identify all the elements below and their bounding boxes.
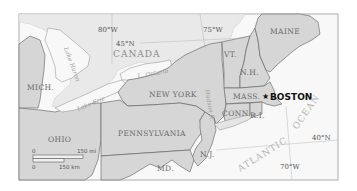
scale-zero-bottom: 0 — [32, 164, 36, 170]
maryland-label: MD. — [157, 164, 174, 173]
canada-label: CANADA — [113, 49, 160, 59]
maine-label: MAINE — [270, 27, 300, 36]
pennsylvania-land — [101, 100, 205, 156]
michigan-label: MICH. — [27, 83, 54, 92]
scale-km-label: 150 km — [59, 164, 80, 170]
northeast-us-map: 80°W 75°W 45°N 40°N 70°W CANADA Lake Hur… — [0, 0, 357, 191]
pennsylvania-label: PENNSYLVANIA — [118, 129, 186, 138]
new-jersey-label: N.J. — [200, 150, 215, 159]
scale-zero-top: 0 — [32, 148, 36, 154]
lon-70-label: 70°W — [280, 163, 300, 171]
scale-miles-label: 150 mi — [77, 148, 97, 154]
ohio-label: OHIO — [48, 135, 71, 144]
rhode-island-label: R.I. — [250, 111, 265, 120]
lon-75-label: 75°W — [203, 26, 223, 34]
massachusetts-label: MASS. — [233, 92, 260, 101]
star-icon: ★ — [262, 92, 269, 101]
vermont-label: VT. — [223, 50, 237, 59]
connecticut-label: CONN. — [222, 109, 251, 118]
new-york-label: NEW YORK — [149, 90, 197, 99]
lat-45-label: 45°N — [116, 40, 135, 48]
new-hampshire-label: N.H. — [240, 68, 259, 77]
lon-80-label: 80°W — [98, 26, 118, 34]
lat-40-label: 40°N — [312, 134, 331, 142]
boston-label: BOSTON — [270, 92, 312, 102]
